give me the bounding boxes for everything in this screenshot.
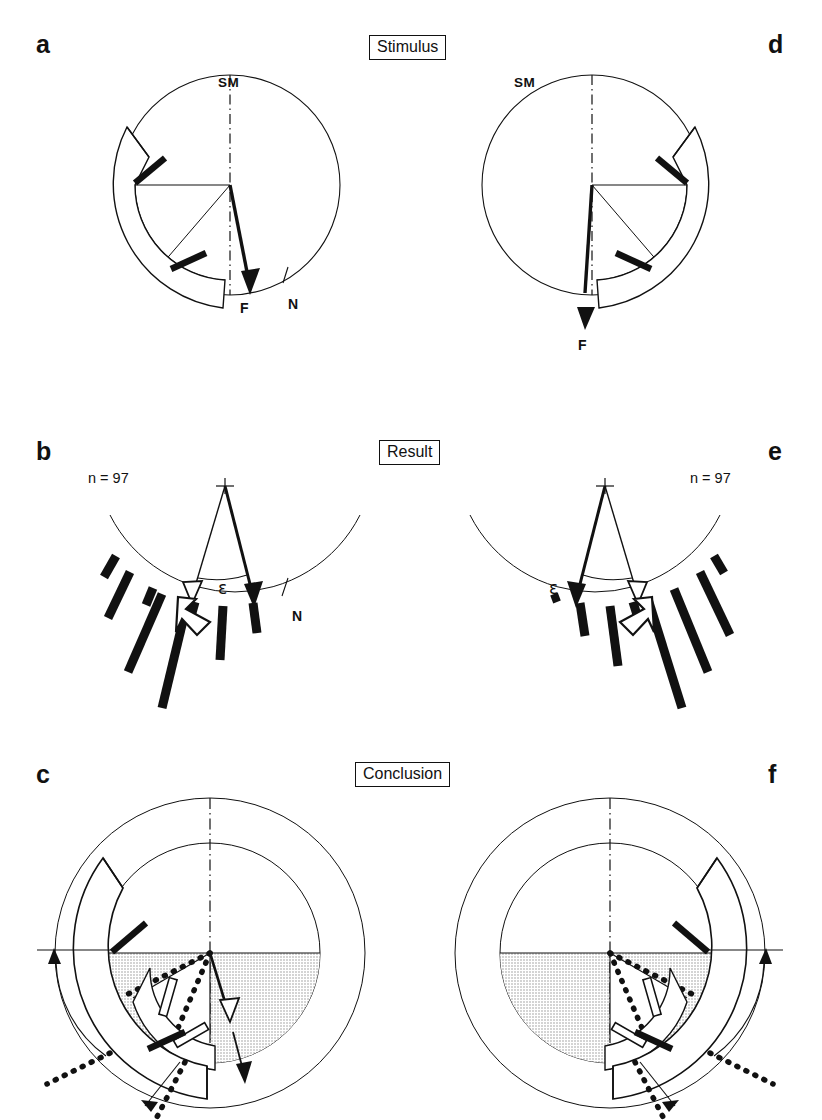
panel-b-mean-vector-shaft	[225, 486, 251, 588]
panel-e-bar-6	[610, 606, 618, 666]
panel-c-small-arrow-head	[141, 1100, 158, 1112]
panel-b-n-tick	[282, 578, 288, 596]
panel-a-label-n: N	[288, 296, 298, 312]
panel-d-diagram	[447, 45, 747, 365]
panel-d-label-sm: SM	[514, 75, 535, 90]
panel-b-bar-7	[220, 606, 223, 660]
panel-a-inner-ray	[163, 185, 230, 263]
panel-d-f-arrow-head	[577, 307, 595, 330]
panel-a-coil-bar-lower	[171, 253, 206, 269]
panel-e-epsilon-arc	[583, 575, 632, 580]
panel-e-bar-3	[674, 589, 708, 672]
panel-e-deflection-block-arrow	[620, 597, 654, 635]
panel-b-mean-vector-head	[244, 581, 263, 608]
section-label-stimulus: Stimulus	[369, 35, 446, 60]
panel-d-coil-band	[597, 127, 709, 308]
panel-b-bar-2	[108, 572, 130, 618]
panel-e-bar-7	[580, 603, 585, 636]
panel-b-histogram-bars	[104, 556, 257, 708]
panel-b-label-n: N	[292, 608, 302, 624]
panel-b-bar-8	[253, 603, 257, 633]
panel-e-mean-vector-shaft	[579, 486, 605, 588]
panel-a-f-arrow-shaft	[230, 185, 248, 277]
panel-letter-a: a	[36, 30, 50, 59]
panel-letter-d: d	[768, 30, 783, 59]
panel-a-f-arrow-head	[241, 268, 260, 295]
panel-letter-e: e	[768, 437, 782, 466]
panel-f-small-arrow-head	[662, 1100, 679, 1112]
panel-letter-b: b	[36, 437, 51, 466]
panel-d-inner-ray	[592, 185, 659, 263]
panel-a-label-f: F	[240, 300, 249, 316]
panel-f-diagram	[425, 770, 795, 1120]
panel-a-coil-band	[113, 127, 225, 308]
panel-b-label-epsilon: ε	[218, 578, 227, 598]
panel-a-label-sm: SM	[218, 75, 239, 90]
panel-e-expected-direction-line	[605, 486, 636, 590]
panel-b-expected-direction-line	[194, 486, 225, 590]
panel-b-label-n-count: n = 97	[88, 470, 129, 486]
panel-b-bar-3	[146, 588, 153, 605]
panel-c-diagram	[25, 770, 395, 1120]
panel-f-outer-coil-bar-upper	[674, 923, 708, 952]
panel-b-bar-4	[128, 594, 162, 672]
panel-b-diagram	[70, 460, 400, 740]
panel-a-diagram	[75, 45, 375, 365]
panel-e-label-n-count: n = 97	[690, 470, 731, 486]
panel-c-solid-arrow-head	[236, 1061, 252, 1084]
panel-e-diagram	[430, 460, 760, 740]
panel-b-bar-1	[104, 556, 116, 577]
panel-d-label-f: F	[578, 337, 587, 353]
panel-c-dotted-line-lower-left	[47, 1053, 110, 1084]
panel-f-dotted-line-lower-left	[710, 1053, 773, 1084]
panel-d-coil-bar-lower	[616, 253, 651, 269]
panel-e-label-epsilon: ε	[549, 578, 558, 598]
panel-d-f-arrow-shaft	[585, 185, 592, 293]
panel-e-bar-1	[714, 556, 724, 573]
panel-e-bar-2	[700, 572, 730, 635]
panel-c-outer-coil-bar-upper	[112, 923, 146, 952]
